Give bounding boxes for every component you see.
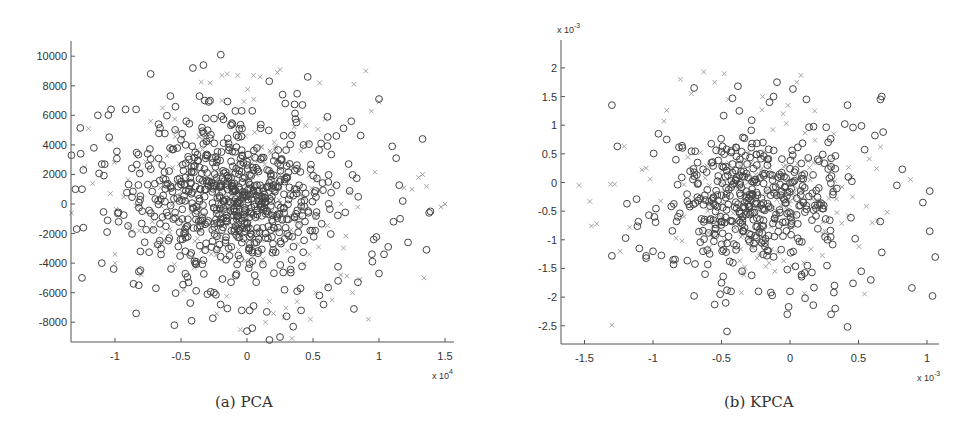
cross-marker (317, 81, 322, 86)
circle-marker (844, 323, 851, 330)
cross-marker (781, 111, 786, 116)
circle-marker (748, 117, 755, 124)
circle-marker (182, 248, 189, 255)
circle-marker (316, 147, 323, 154)
circle-marker (636, 245, 643, 252)
x-tick-label: 1 (924, 352, 930, 364)
circle-marker (828, 311, 835, 318)
x-tick-label: 0 (244, 350, 250, 362)
data-points (577, 70, 939, 335)
circle-marker (308, 161, 315, 168)
circle-marker (281, 286, 288, 293)
circle-marker (219, 276, 226, 283)
circle-marker (755, 288, 762, 295)
circle-marker (749, 140, 756, 147)
circle-marker (841, 121, 848, 128)
circle-marker (355, 193, 362, 200)
circle-marker (147, 155, 154, 162)
circle-marker (831, 282, 838, 289)
circle-marker (674, 181, 681, 188)
circle-marker (829, 241, 836, 248)
circle-marker (810, 172, 817, 179)
circle-marker (609, 252, 616, 259)
circle-marker (787, 288, 794, 295)
circle-marker (850, 124, 857, 131)
cross-marker (422, 276, 427, 281)
cross-marker (278, 67, 283, 72)
circle-marker (635, 218, 642, 225)
circle-marker (351, 306, 358, 313)
circle-marker (79, 275, 86, 282)
circle-marker (146, 249, 153, 256)
circle-marker (658, 252, 665, 259)
y-tick-label: -4000 (39, 257, 67, 269)
cross-marker (373, 170, 378, 175)
caption-kpca: (b) KPCA (724, 393, 794, 411)
circle-marker (340, 125, 347, 132)
cross-marker (850, 195, 855, 200)
circle-marker (389, 143, 396, 150)
circle-marker (748, 272, 755, 279)
circle-marker (249, 107, 256, 114)
circle-marker (125, 181, 132, 188)
circle-marker (399, 198, 406, 205)
circle-marker (809, 269, 816, 276)
y-tick-label: 2 (551, 62, 557, 74)
y-tick-label: 2000 (43, 168, 67, 180)
circle-marker (237, 121, 244, 128)
cross-marker (885, 210, 890, 215)
circle-marker (827, 227, 834, 234)
circle-marker (822, 216, 829, 223)
circle-marker (345, 161, 352, 168)
circle-marker (251, 272, 258, 279)
y-multiplier-label: x 10-3 (557, 22, 580, 35)
circle-marker (287, 141, 294, 148)
cross-marker (267, 299, 272, 304)
cross-marker (722, 71, 727, 76)
cross-marker (263, 320, 268, 325)
x-tick-label: 1.5 (437, 350, 452, 362)
circle-marker (232, 108, 239, 115)
circle-marker (80, 224, 87, 231)
circle-marker (122, 106, 129, 113)
cross-marker (443, 202, 448, 207)
cross-marker (640, 168, 645, 173)
circle-marker (277, 262, 284, 269)
circle-marker (799, 140, 806, 147)
cross-marker (316, 245, 321, 250)
circle-marker (787, 249, 794, 256)
circle-marker (209, 315, 216, 322)
x-tick-label: 0.5 (851, 352, 866, 364)
cross-marker (664, 108, 669, 113)
cross-marker (678, 77, 683, 82)
y-tick-label: -2000 (39, 228, 67, 240)
cross-marker (243, 258, 248, 263)
circle-marker (653, 205, 660, 212)
cross-marker (760, 108, 765, 113)
cross-marker (622, 144, 627, 149)
circle-marker (929, 293, 936, 300)
cross-marker (355, 205, 360, 210)
circle-marker (94, 112, 101, 119)
circle-marker (673, 218, 680, 225)
circle-marker (220, 140, 227, 147)
circle-marker (179, 206, 186, 213)
cross-marker (686, 155, 691, 160)
circle-marker (711, 238, 718, 245)
circle-marker (141, 239, 148, 246)
circle-marker (848, 178, 855, 185)
circle-marker (396, 182, 403, 189)
cross-marker (820, 253, 825, 258)
cross-marker (271, 311, 276, 316)
cross-marker (113, 261, 118, 266)
cross-marker (608, 182, 613, 187)
cross-marker (299, 149, 304, 154)
circle-marker (393, 155, 400, 162)
cross-marker (330, 297, 335, 302)
circle-marker (98, 260, 105, 267)
circle-marker (159, 162, 166, 169)
x-tick-label: 0 (787, 352, 793, 364)
circle-marker (357, 132, 364, 139)
cross-marker (252, 130, 257, 135)
cross-marker (812, 109, 817, 114)
